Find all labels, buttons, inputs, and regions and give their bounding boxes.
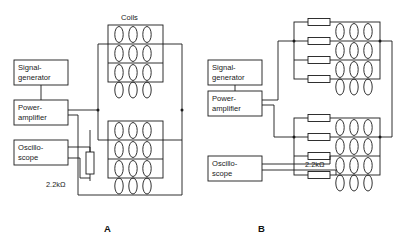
oscilloscope-label-line2-b: scope bbox=[212, 169, 232, 178]
panel-a: Signal- generator Power- amplifier Oscil… bbox=[14, 13, 184, 234]
junction-dot-lower-right-b bbox=[379, 136, 382, 139]
signal-generator-label-line2: generator bbox=[18, 73, 51, 82]
oscilloscope-label-line2: scope bbox=[18, 153, 38, 162]
series-resistor-label-b: 2.2kΩ bbox=[305, 160, 325, 169]
signal-generator-label-line2-b: generator bbox=[212, 73, 245, 82]
circuit-diagram-figure: Signal- generator Power- amplifier Oscil… bbox=[0, 0, 402, 249]
panel-letter-b: B bbox=[258, 223, 265, 234]
junction-dot-right-a bbox=[181, 109, 184, 112]
junction-dot-upper-left-b bbox=[293, 40, 296, 43]
signal-generator-box-b: Signal- generator bbox=[208, 60, 262, 85]
array-resistor-b-l1 bbox=[308, 115, 330, 122]
array-resistor-b-u4 bbox=[308, 76, 330, 83]
wire-scope-top-a bbox=[68, 147, 90, 152]
oscilloscope-label-line1: Oscillo- bbox=[18, 143, 44, 152]
panel-b: Signal- generator Power- amplifier Oscil… bbox=[208, 19, 392, 235]
power-amplifier-label-line1: Power- bbox=[18, 103, 43, 112]
array-resistor-b-l4 bbox=[308, 172, 330, 179]
lower-coil-array-b bbox=[294, 115, 380, 192]
signal-generator-label-line1: Signal- bbox=[18, 63, 42, 72]
oscilloscope-box-b: Oscillo- scope bbox=[208, 156, 262, 181]
panel-letter-a: A bbox=[104, 223, 111, 234]
upper-coil-array-b bbox=[294, 19, 380, 96]
power-amplifier-box-a: Power- amplifier bbox=[14, 100, 68, 125]
power-amplifier-label-line2: amplifier bbox=[18, 113, 47, 122]
oscilloscope-label-line1-b: Oscillo- bbox=[212, 159, 238, 168]
array-resistor-b-u3 bbox=[308, 57, 330, 64]
array-resistor-b-u1 bbox=[308, 19, 330, 26]
signal-generator-box-a: Signal- generator bbox=[14, 60, 68, 85]
power-amplifier-label-line1-b: Power- bbox=[212, 94, 237, 103]
junction-dot-upper-right-b bbox=[379, 40, 382, 43]
diagram-canvas: Signal- generator Power- amplifier Oscil… bbox=[0, 0, 402, 249]
array-resistor-b-l3 bbox=[308, 153, 330, 160]
lower-coil-array-a bbox=[108, 121, 163, 194]
signal-generator-label-line1-b: Signal- bbox=[212, 63, 236, 72]
array-resistor-b-u2 bbox=[308, 38, 330, 45]
coils-label: Coils bbox=[121, 13, 138, 22]
upper-coil-array-a bbox=[108, 25, 163, 98]
power-amplifier-box-b: Power- amplifier bbox=[208, 91, 262, 116]
power-amplifier-label-line2-b: amplifier bbox=[212, 104, 241, 113]
series-resistor-label-a: 2.2kΩ bbox=[46, 180, 66, 189]
array-resistor-b-l2 bbox=[308, 134, 330, 141]
junction-dot-lower-left-b bbox=[293, 136, 296, 139]
junction-dot-left-a bbox=[97, 109, 100, 112]
oscilloscope-box-a: Oscillo- scope bbox=[14, 140, 68, 165]
